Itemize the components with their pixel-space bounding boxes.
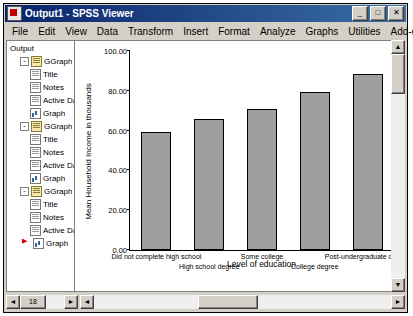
y-tick-label: 100.00 xyxy=(104,47,130,56)
scroll-up-button[interactable]: ▲ xyxy=(391,40,405,54)
ggraph-icon xyxy=(31,56,42,67)
outline-pane[interactable]: Output - GGraph Title Notes Active Dat xyxy=(6,40,74,292)
tree-item-label: Active Dat xyxy=(43,96,74,105)
vertical-scroll-thumb[interactable] xyxy=(391,54,405,94)
tree-item-activedataset-1[interactable]: Active Dat xyxy=(8,159,74,172)
menu-item-addons[interactable]: Add-ons xyxy=(385,25,413,38)
y-tick-label: 80.00 xyxy=(108,86,130,95)
y-tick-mark xyxy=(127,90,130,91)
output-viewer-pane[interactable]: Mean Household Income in thousands 0.002… xyxy=(74,40,405,292)
chart-icon xyxy=(30,173,41,184)
tree-item-label: Graph xyxy=(46,239,68,248)
tree-item-label: Graph xyxy=(43,174,65,183)
tree-item-label: Notes xyxy=(43,148,64,157)
page-icon xyxy=(30,147,41,158)
y-tick-mark xyxy=(127,169,130,170)
menu-item-graphs[interactable]: Graphs xyxy=(300,25,343,38)
tree-item-notes-1[interactable]: Notes xyxy=(8,146,74,159)
plot-area: 0.0020.0040.0060.0080.00100.00Did not co… xyxy=(129,51,394,251)
outline-scroll-thumb[interactable]: 18 xyxy=(20,295,46,309)
menu-item-edit[interactable]: Edit xyxy=(33,25,60,38)
ggraph-icon xyxy=(31,186,42,197)
spss-viewer-icon xyxy=(7,6,22,21)
tree-group-2[interactable]: - GGraph xyxy=(8,185,74,198)
menu-item-file[interactable]: File xyxy=(7,25,33,38)
tree-item-activedataset-2[interactable]: Active Dat xyxy=(8,224,74,237)
x-axis-label: Level of education xyxy=(129,259,394,269)
page-icon xyxy=(30,160,41,171)
collapse-toggle-icon[interactable]: - xyxy=(20,122,29,131)
bar-2 xyxy=(247,109,277,250)
y-axis-label: Mean Household Income in thousands xyxy=(81,51,95,251)
tree-item-label: Title xyxy=(43,200,58,209)
main-area: Output - GGraph Title Notes Active Dat xyxy=(6,40,405,292)
menu-item-insert[interactable]: Insert xyxy=(178,25,213,38)
close-button[interactable]: ✕ xyxy=(388,6,404,21)
vertical-scrollbar[interactable]: ▲ ▼ xyxy=(391,40,405,292)
page-icon xyxy=(30,199,41,210)
spss-viewer-window: Output1 - SPSS Viewer _ □ ✕ File Edit Vi… xyxy=(3,3,408,313)
viewer-scroll-thumb[interactable] xyxy=(198,295,258,309)
tree-item-label: Graph xyxy=(43,109,65,118)
bar-1 xyxy=(194,119,224,250)
tree-item-graph-1[interactable]: Graph xyxy=(8,172,74,185)
outline-hscrollbar[interactable]: ◄ 18 ► xyxy=(6,295,78,309)
menu-item-utilities[interactable]: Utilities xyxy=(343,25,385,38)
tree-item-title-2[interactable]: Title xyxy=(8,198,74,211)
ggraph-icon xyxy=(31,121,42,132)
page-icon xyxy=(30,69,41,80)
collapse-toggle-icon[interactable]: - xyxy=(20,187,29,196)
tree-item-label: Active Dat xyxy=(43,226,74,235)
menu-item-analyze[interactable]: Analyze xyxy=(255,25,301,38)
outline-scroll-track[interactable]: 18 xyxy=(20,295,64,309)
selection-arrow-icon xyxy=(22,239,31,248)
page-icon xyxy=(30,82,41,93)
menu-item-data[interactable]: Data xyxy=(92,25,123,38)
outline-scroll-left-button[interactable]: ◄ xyxy=(6,295,20,309)
tree-group-label: GGraph xyxy=(44,187,72,196)
tree-item-notes-2[interactable]: Notes xyxy=(8,211,74,224)
tree-item-label: Active Dat xyxy=(43,161,74,170)
menu-item-format[interactable]: Format xyxy=(213,25,255,38)
menu-item-view[interactable]: View xyxy=(60,25,92,38)
tree-item-label: Title xyxy=(43,135,58,144)
outline-scroll-right-button[interactable]: ► xyxy=(64,295,78,309)
bar-chart: Mean Household Income in thousands 0.002… xyxy=(81,45,400,287)
tree-root[interactable]: Output xyxy=(8,42,74,55)
bar-series xyxy=(130,51,394,250)
tree-group-1[interactable]: - GGraph xyxy=(8,120,74,133)
tree-item-activedataset-0[interactable]: Active Dat xyxy=(8,94,74,107)
bar-4 xyxy=(353,74,383,250)
tree-item-graph-0[interactable]: Graph xyxy=(8,107,74,120)
tree-item-label: Notes xyxy=(43,83,64,92)
menu-item-transform[interactable]: Transform xyxy=(123,25,178,38)
tree-item-notes-0[interactable]: Notes xyxy=(8,81,74,94)
bar-0 xyxy=(141,132,171,250)
vertical-scroll-track[interactable] xyxy=(391,54,405,278)
menu-bar: File Edit View Data Transform Insert For… xyxy=(4,23,407,39)
y-axis-label-text: Mean Household Income in thousands xyxy=(84,83,93,220)
chart-icon xyxy=(33,238,44,249)
tree-root-label: Output xyxy=(10,44,34,53)
tree-group-label: GGraph xyxy=(44,57,72,66)
y-tick-mark xyxy=(127,249,130,250)
viewer-scroll-left-button[interactable]: ◄ xyxy=(80,295,94,309)
viewer-scroll-right-button[interactable]: ► xyxy=(391,295,405,309)
maximize-button[interactable]: □ xyxy=(370,6,386,21)
tree-group-0[interactable]: - GGraph xyxy=(8,55,74,68)
tree-group-label: GGraph xyxy=(44,122,72,131)
tree-item-graph-2[interactable]: Graph xyxy=(8,237,74,250)
scroll-down-button[interactable]: ▼ xyxy=(391,278,405,292)
tree-item-title-1[interactable]: Title xyxy=(8,133,74,146)
viewer-scroll-track[interactable] xyxy=(94,295,391,309)
minimize-button[interactable]: _ xyxy=(352,6,368,21)
viewer-hscrollbar[interactable]: ◄ ► xyxy=(80,295,405,309)
page-icon xyxy=(30,134,41,145)
tree-item-title-0[interactable]: Title xyxy=(8,68,74,81)
collapse-toggle-icon[interactable]: - xyxy=(20,57,29,66)
y-tick-label: 20.00 xyxy=(108,206,130,215)
y-tick-mark xyxy=(127,50,130,51)
title-bar: Output1 - SPSS Viewer _ □ ✕ xyxy=(5,5,406,22)
bottom-scrollbars: ◄ 18 ► ◄ ► xyxy=(6,295,405,309)
y-tick-mark xyxy=(127,209,130,210)
